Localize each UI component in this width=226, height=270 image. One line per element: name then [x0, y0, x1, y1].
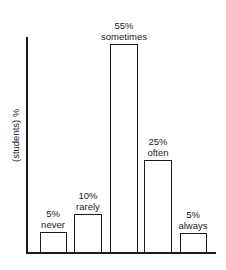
- bar-never: [40, 232, 67, 252]
- bar-value: 55%: [94, 20, 154, 31]
- bar-rarely: [74, 214, 102, 252]
- bar-always: [180, 233, 207, 252]
- bar-label-rarely: 10% rarely: [58, 190, 118, 212]
- bar-label-often: 25% often: [128, 136, 188, 158]
- bar-value: 25%: [128, 136, 188, 147]
- bar-often: [144, 160, 172, 252]
- bar-chart: (students) % 5% never 10% rarely 55% som…: [0, 0, 226, 270]
- y-axis-label: (students) %: [10, 109, 21, 162]
- bar-label-sometimes: 55% sometimes: [94, 20, 154, 42]
- bar-category: always: [163, 220, 223, 231]
- bar-category: sometimes: [94, 31, 154, 42]
- bar-value: 5%: [163, 209, 223, 220]
- bar-label-always: 5% always: [163, 209, 223, 231]
- bar-category: often: [128, 147, 188, 158]
- bar-value: 10%: [58, 190, 118, 201]
- x-axis: [26, 252, 216, 254]
- bar-category: rarely: [58, 201, 118, 212]
